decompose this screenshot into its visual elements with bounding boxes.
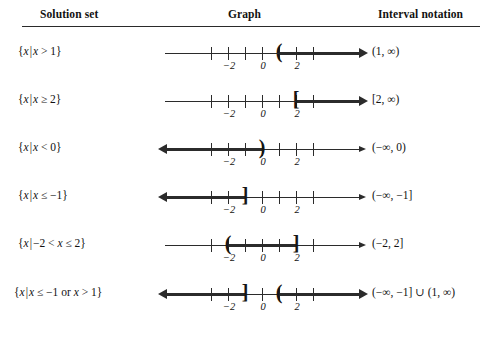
axis-tick: [211, 239, 212, 252]
highlighted-interval-segment: [279, 293, 359, 296]
highlighted-interval-segment: [296, 100, 359, 103]
axis-arrowhead-right: [359, 289, 368, 299]
table-row: {x|x ≤ −1}−202](−∞, −1]: [0, 188, 500, 236]
number-line-graph: −202]: [162, 188, 368, 222]
interval-notation-cell: (−∞, 0): [372, 140, 500, 154]
axis-tick-label: −2: [223, 156, 235, 167]
axis-tick-label: 2: [294, 301, 299, 312]
interval-notation-cell: (−2, 2]: [372, 236, 500, 250]
solution-set-cell: {x|x < 0}: [18, 140, 168, 154]
highlighted-interval-segment: [165, 196, 245, 199]
axis-arrowhead-right: [359, 194, 366, 200]
interval-notation-cell: (−∞, −1] ∪ (1, ∞): [372, 285, 500, 299]
axis-arrowhead-left: [158, 192, 167, 202]
axis-tick-label: −2: [223, 301, 235, 312]
highlighted-interval-segment: [165, 148, 262, 151]
number-line-graph: −202): [162, 140, 368, 174]
number-line-graph: −202(: [162, 44, 368, 78]
table-row: {x|x < 0}−202)(−∞, 0): [0, 140, 500, 188]
axis-tick: [313, 191, 314, 204]
axis-tick-label: 0: [260, 301, 265, 312]
number-line-graph: −202](: [162, 285, 368, 319]
table-row: {x|−2 < x ≤ 2}−202(](−2, 2]: [0, 236, 500, 284]
solution-set-cell: {x|−2 < x ≤ 2}: [18, 236, 168, 250]
number-line-axis-tail: [165, 101, 296, 102]
number-line-graph: −202(]: [162, 236, 368, 270]
interval-endpoint-bracket: ]: [242, 185, 249, 205]
table-header: Solution set Graph Interval notation: [0, 6, 500, 28]
table-row: {x|x ≤ −1 or x > 1}−202]((−∞, −1] ∪ (1, …: [0, 285, 500, 333]
column-header-solution-set: Solution set: [40, 8, 98, 20]
solution-set-cell: {x|x ≥ 2}: [18, 92, 168, 106]
table-row: {x|x > 1}−202((1, ∞): [0, 44, 500, 92]
axis-tick-label: −2: [223, 60, 235, 71]
interval-endpoint-bracket: ]: [242, 282, 249, 302]
interval-endpoint-bracket: (: [276, 41, 283, 61]
column-header-interval-notation: Interval notation: [378, 8, 463, 20]
interval-endpoint-bracket: (: [225, 233, 232, 253]
interval-notation-cell: [2, ∞): [372, 92, 500, 106]
solution-set-cell: {x|x ≤ −1 or x > 1}: [14, 285, 164, 299]
axis-tick-label: 2: [294, 156, 299, 167]
highlighted-interval-segment: [279, 52, 359, 55]
axis-tick: [296, 191, 297, 204]
axis-tick-label: 2: [294, 60, 299, 71]
header-divider-rule: [22, 26, 480, 27]
axis-arrowhead-right: [359, 242, 366, 248]
axis-tick-label: −2: [223, 108, 235, 119]
number-line-graph: −202[: [162, 92, 368, 126]
axis-tick: [262, 288, 263, 301]
table-row: {x|x ≥ 2}−202[[2, ∞): [0, 92, 500, 140]
axis-tick-label: 0: [260, 108, 265, 119]
axis-tick: [262, 191, 263, 204]
interval-endpoint-bracket: [: [293, 89, 300, 109]
interval-endpoint-bracket: ): [259, 137, 266, 157]
axis-arrowhead-right: [359, 146, 366, 152]
solution-set-cell: {x|x ≤ −1}: [18, 188, 168, 202]
highlighted-interval-segment: [228, 244, 296, 247]
axis-arrowhead-right: [359, 96, 368, 106]
axis-tick: [279, 143, 280, 156]
number-line-axis-tail: [165, 53, 279, 54]
axis-tick: [313, 143, 314, 156]
column-header-graph: Graph: [228, 8, 261, 20]
axis-tick-label: 0: [260, 60, 265, 71]
axis-tick-label: 2: [294, 204, 299, 215]
axis-arrowhead-left: [158, 289, 167, 299]
interval-endpoint-bracket: ]: [293, 233, 300, 253]
interval-notation-cell: (1, ∞): [372, 44, 500, 58]
axis-tick: [279, 191, 280, 204]
highlighted-interval-segment: [165, 293, 245, 296]
interval-notation-cell: (−∞, −1]: [372, 188, 500, 202]
axis-tick: [313, 239, 314, 252]
axis-tick-label: 0: [260, 204, 265, 215]
interval-endpoint-bracket: (: [276, 282, 283, 302]
axis-arrowhead-left: [158, 144, 167, 154]
axis-tick-label: 0: [260, 252, 265, 263]
axis-tick-label: −2: [223, 204, 235, 215]
solution-set-cell: {x|x > 1}: [18, 44, 168, 58]
axis-tick: [296, 143, 297, 156]
axis-arrowhead-right: [359, 48, 368, 58]
